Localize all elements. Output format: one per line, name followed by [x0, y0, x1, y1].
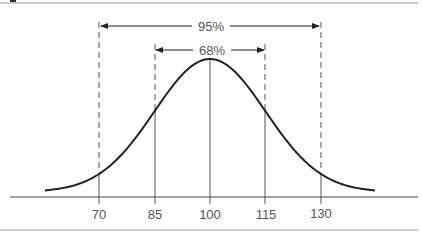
tick-70: 70	[92, 207, 106, 222]
tick-100: 100	[199, 207, 221, 222]
sd-lines	[99, 59, 321, 204]
label-95: 95%	[198, 19, 224, 34]
bell-curve-diagram: 95% 68% 70 85 100 115 130	[0, 0, 422, 232]
arrow-right-icon	[257, 47, 265, 53]
arrow-68: 68%	[155, 43, 265, 58]
tick-130: 130	[310, 206, 332, 221]
arrow-right-icon	[312, 23, 320, 29]
arrow-left-icon	[155, 47, 163, 53]
tick-85: 85	[148, 207, 162, 222]
arrow-left-icon	[100, 23, 108, 29]
arrow-95: 95%	[100, 19, 320, 34]
tick-115: 115	[256, 207, 277, 222]
label-68: 68%	[199, 43, 225, 58]
